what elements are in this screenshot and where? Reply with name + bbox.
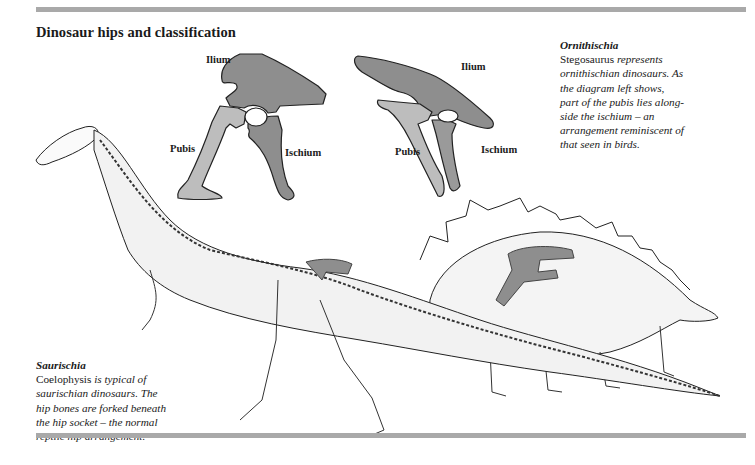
caption-line: the diagram left shows, [560,82,664,94]
saurischian-ilium [222,54,326,113]
saurischia-subject: Coelophysis [36,373,91,385]
caption-line: the hip socket – the normal [36,416,157,428]
caption-line: saurischian dinosaurs. The [36,387,158,399]
caption-line: side the ischium – an [560,110,654,122]
ornithischian-ischium-label: Ischium [481,144,517,155]
caption-line: part of the pubis lies along- [560,96,684,108]
saurischia-caption: Saurischia Coelophysis is typical of sau… [36,358,236,443]
saurischia-heading: Saurischia [36,358,236,372]
saurischian-ischium [248,116,294,200]
saurischian-ischium-label: Ischium [285,147,321,158]
bottom-divider-rule [36,433,746,438]
saurischian-ilium-label: Ilium [206,54,231,65]
ornithischian-hip-diagram [355,56,494,196]
caption-line: arrangement reminiscent of [560,124,684,136]
coelophysis-head [36,126,98,164]
saurischian-hip-diagram [178,54,326,200]
caption-line: is typical of [94,373,146,385]
ornithischia-caption: Ornithischia Stegosaurus represents orni… [560,38,750,152]
ornithischia-heading: Ornithischia [560,38,750,52]
caption-line: hip bones are forked beneath [36,402,166,414]
ornithischian-pubis-label: Pubis [395,146,420,157]
saurischian-pubis-label: Pubis [170,143,195,154]
ornithischian-ilium-label: Ilium [461,61,486,72]
ornithischia-subject: Stegosaurus [560,53,614,65]
caption-line: that seen in birds. [560,138,640,150]
caption-line: ornithischian dinosaurs. As [560,67,683,79]
caption-line: represents [617,53,663,65]
